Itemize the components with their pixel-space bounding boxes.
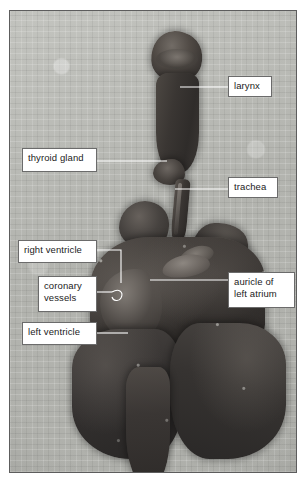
label-trachea: trachea — [228, 177, 278, 198]
label-left-ventricle: left ventricle — [22, 322, 97, 345]
specimen-thyroid-column — [156, 73, 199, 173]
label-coronary-vessels: coronary vessels — [38, 276, 97, 312]
label-larynx: larynx — [228, 76, 272, 97]
specimen-central-lobe-strip — [126, 367, 170, 473]
label-auricle-of-left-atrium: auricle of left atrium — [228, 272, 295, 308]
figure-panel: larynx thyroid gland trachea right ventr… — [0, 0, 307, 484]
specimen-lower-right-lobe — [170, 323, 286, 459]
label-right-ventricle: right ventricle — [18, 240, 97, 263]
specimen-larynx-highlight — [156, 49, 198, 69]
label-thyroid-gland: thyroid gland — [22, 148, 97, 172]
